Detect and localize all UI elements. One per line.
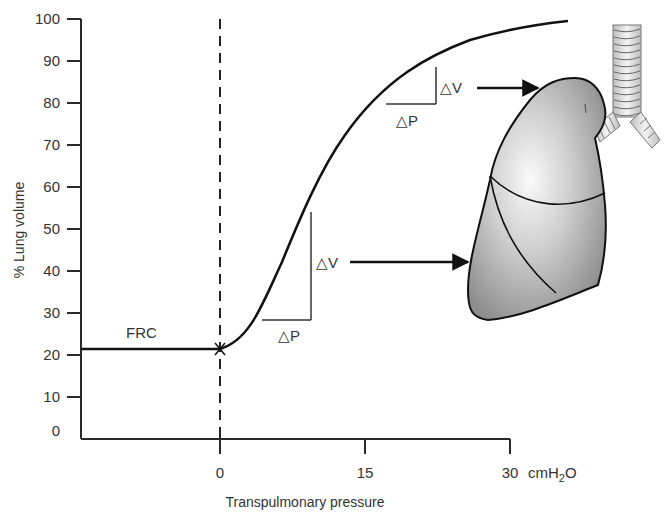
x-tick-label: 15 (357, 464, 374, 481)
y-axis: 0102030405060708090100 (35, 10, 81, 439)
x-tick-label: 30 (502, 464, 519, 481)
slope-triangle-flat (386, 67, 436, 104)
y-tick-label: 20 (43, 346, 60, 363)
trachea-icon (594, 25, 660, 148)
delta-v-label-steep: △V (316, 254, 338, 271)
x-axis-title: Transpulmonary pressure (226, 494, 385, 510)
frc-label: FRC (126, 324, 157, 341)
y-tick-label: 70 (43, 136, 60, 153)
y-tick-label: 80 (43, 94, 60, 111)
y-axis-title: % Lung volume (11, 182, 27, 279)
y-tick-label: 90 (43, 52, 60, 69)
y-tick-label: 50 (43, 220, 60, 237)
y-tick-label: 0 (52, 422, 60, 439)
delta-v-label-flat: △V (440, 79, 462, 96)
lung-outline (468, 78, 606, 320)
delta-p-label-steep: △P (278, 327, 300, 344)
slope-triangle-steep (262, 212, 311, 320)
delta-p-label-flat: △P (396, 112, 418, 129)
y-tick-label: 60 (43, 178, 60, 195)
lung-illustration (468, 25, 660, 320)
x-axis-unit: cmH2O (528, 464, 577, 484)
pressure-volume-chart: 0102030405060708090100 01530 % Lung volu… (0, 0, 668, 515)
y-tick-label: 100 (35, 10, 60, 27)
y-tick-label: 30 (43, 304, 60, 321)
x-tick-label: 0 (216, 464, 224, 481)
x-axis: 01530 (81, 430, 518, 481)
y-tick-label: 10 (43, 388, 60, 405)
y-tick-label: 40 (43, 262, 60, 279)
